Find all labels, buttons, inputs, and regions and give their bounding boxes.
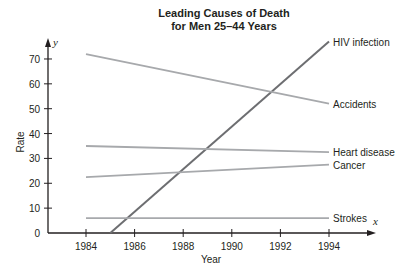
- series-label-strokes: Strokes: [333, 213, 367, 224]
- axes: [45, 38, 376, 236]
- y-tick-label: 30: [29, 153, 41, 164]
- x-axis-title: Year: [201, 254, 222, 265]
- y-axis-variable: y: [52, 36, 58, 48]
- series-label-heart-disease: Heart disease: [333, 147, 395, 158]
- y-tick-label: 0: [34, 228, 40, 239]
- y-tick-label: 60: [29, 79, 41, 90]
- x-tick-label: 1986: [123, 241, 146, 252]
- series-label-accidents: Accidents: [333, 99, 376, 110]
- x-axis-variable: x: [372, 215, 378, 227]
- series-label-hiv-infection: HIV infection: [333, 37, 390, 48]
- x-tick-label: 1988: [172, 241, 195, 252]
- y-tick-label: 10: [29, 203, 41, 214]
- x-tick-label: 1990: [221, 241, 244, 252]
- y-tick-label: 40: [29, 129, 41, 140]
- line-chart: Leading Causes of Death for Men 25–44 Ye…: [0, 0, 399, 278]
- y-tick-label: 50: [29, 104, 41, 115]
- series-line-cancer: [86, 165, 329, 177]
- series-labels: HIV infectionAccidentsHeart diseaseCance…: [333, 37, 395, 225]
- x-tick-label: 1994: [318, 241, 341, 252]
- series-line-hiv-infection: [110, 42, 329, 233]
- chart-subtitle: for Men 25–44 Years: [171, 20, 277, 32]
- series-line-accidents: [86, 54, 329, 104]
- series-label-cancer: Cancer: [333, 160, 366, 171]
- x-tick-label: 1992: [269, 241, 292, 252]
- y-tick-label: 20: [29, 178, 41, 189]
- y-axis-title: Rate: [15, 131, 26, 153]
- chart-title: Leading Causes of Death: [158, 7, 290, 19]
- y-axis-arrow-icon: [45, 38, 51, 47]
- x-tick-label: 1984: [75, 241, 98, 252]
- x-axis-arrow-icon: [367, 230, 376, 236]
- series-lines: [86, 42, 329, 233]
- y-tick-label: 70: [29, 54, 41, 65]
